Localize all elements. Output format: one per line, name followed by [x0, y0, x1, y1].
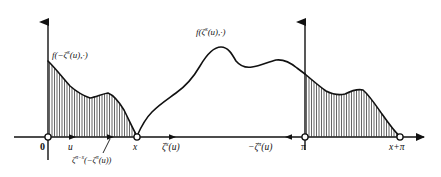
axis-label-x-plus-pi-text: x+π [389, 142, 404, 152]
tick-arrow-zeta-pi-minus-x [107, 134, 114, 140]
axis-label-zeta-x-u: ζx(u) [162, 142, 180, 153]
node-origin [45, 134, 51, 140]
axis-label-pi: π [301, 143, 306, 153]
axis-label-x: x [133, 143, 137, 153]
axis-label-minus-zeta-pi-u-prefix: −ζ [248, 142, 258, 152]
leader-line [103, 139, 110, 153]
axis-label-zeta-pi-minus-x-sup: π−x [75, 154, 84, 160]
axis-label-pi-text: π [301, 142, 306, 152]
left-curve-label: f(−ζx(u),·) [52, 50, 88, 60]
right-hatched-area [307, 0, 400, 177]
axis-label-minus-zeta-pi-u: −ζπ(u) [248, 142, 272, 153]
node-x [134, 134, 140, 140]
node-pi [302, 134, 308, 140]
center-curve-label-suffix: (u),·) [208, 27, 226, 37]
center-curve [137, 47, 305, 136]
center-curve-label: f(ζx(u),·) [196, 27, 226, 37]
axis-label-u: u [68, 143, 73, 153]
tick-arrow-minus-zeta-pi-u [285, 134, 292, 140]
axis-label-minus-zeta-pi-u-suffix: (u) [261, 142, 272, 152]
node-x-plus-pi [397, 134, 403, 140]
left-hatched-area [50, 0, 135, 177]
axis-label-x-plus-pi: x+π [389, 143, 404, 153]
tick-arrow-u [69, 134, 76, 140]
axis-label-zeta-pi-minus-x-suffix: (u)) [99, 155, 112, 165]
axis-label-zero: 0 [40, 142, 45, 152]
axis-label-u-text: u [68, 142, 73, 152]
figure-root: f(−ζx(u),·) f(ζx(u),·) 0 u x π x+π ζx(u)… [0, 0, 441, 177]
tick-arrow-zeta-x-u [169, 134, 176, 140]
axis-label-zero-text: 0 [40, 141, 45, 152]
axis-label-x-text: x [133, 142, 137, 152]
left-curve-label-prefix: f(−ζ [52, 50, 67, 60]
center-curve-label-prefix: f(ζ [196, 27, 205, 37]
axis-label-zeta-pi-minus-x: ζπ−x(−ζπ(u)) [72, 155, 111, 164]
axis-label-zeta-x-u-suffix: (u) [168, 142, 179, 152]
left-curve [48, 61, 137, 136]
axis-label-zeta-pi-minus-x-mid: (−ζ [84, 155, 96, 165]
left-curve-label-suffix: (u),·) [70, 50, 88, 60]
